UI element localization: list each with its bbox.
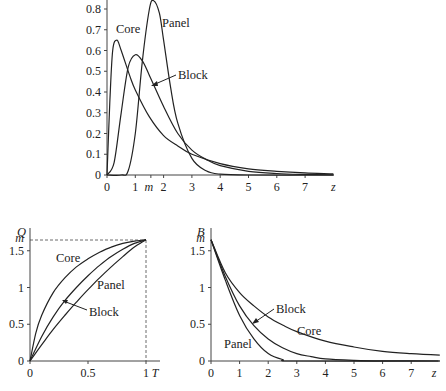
x-tick-label: 0 bbox=[104, 180, 110, 194]
right-x-ticks: 01234567z bbox=[208, 361, 437, 380]
top-x-ticks: 01m234567z bbox=[104, 175, 336, 194]
left-x-ticks: 00.51T bbox=[27, 361, 160, 380]
top-chart: 00.10.20.30.40.50.60.70.8 01m234567z Cor… bbox=[86, 0, 336, 194]
y-tick-label: 0.5 bbox=[86, 64, 101, 78]
left-block-arrow bbox=[66, 302, 87, 310]
y-tick-label: 0.5 bbox=[190, 317, 205, 331]
x-tick-label: 7 bbox=[408, 366, 414, 380]
x-tick-label: 0.5 bbox=[81, 366, 96, 380]
top-curves bbox=[107, 0, 333, 175]
y-tick-label: 0 bbox=[199, 354, 205, 368]
x-tick-label: 4 bbox=[217, 180, 223, 194]
right-label-block: Block bbox=[276, 302, 307, 316]
y-tick-label: 0.3 bbox=[86, 106, 101, 120]
y-tick-label: 0.2 bbox=[86, 127, 101, 141]
left-label-panel: Panel bbox=[97, 278, 125, 292]
x-tick-label: 4 bbox=[322, 366, 328, 380]
curve-panel bbox=[107, 0, 333, 175]
x-tick-label: 5 bbox=[246, 180, 252, 194]
y-tick-label: 1 bbox=[18, 281, 24, 295]
left-y-ticks: 00.511.5m bbox=[9, 231, 30, 368]
left-y-label: Q bbox=[17, 225, 26, 239]
x-tick-label: z bbox=[330, 180, 336, 194]
y-tick-label: 0 bbox=[95, 168, 101, 182]
x-tick-label: 7 bbox=[302, 180, 308, 194]
x-tick-label: 3 bbox=[294, 366, 300, 380]
right-label-panel: Panel bbox=[224, 337, 252, 351]
right-y-ticks: 00.511.5m bbox=[190, 231, 211, 368]
top-label-block: Block bbox=[178, 68, 209, 82]
x-tick-label: 2 bbox=[161, 180, 167, 194]
right-block-arrowhead bbox=[252, 318, 259, 324]
x-tick-label: 1 bbox=[132, 180, 138, 194]
curve-core bbox=[30, 240, 146, 361]
y-tick-label: 0.5 bbox=[9, 317, 24, 331]
x-tick-label: 3 bbox=[189, 180, 195, 194]
curve-block bbox=[30, 240, 146, 361]
x-tick-label: 0 bbox=[27, 366, 33, 380]
right-y-label: B bbox=[197, 225, 205, 239]
y-tick-label: 0.1 bbox=[86, 147, 101, 161]
y-tick-label: 0.8 bbox=[86, 2, 101, 16]
right-chart: 00.511.5m 01234567z B Block Core Panel bbox=[190, 225, 440, 380]
top-label-core: Core bbox=[116, 22, 141, 36]
top-label-panel: Panel bbox=[162, 16, 190, 30]
x-tick-label: 1 bbox=[237, 366, 243, 380]
right-block-arrow bbox=[255, 309, 274, 322]
x-tick-label: 2 bbox=[265, 366, 271, 380]
x-tick-label: 5 bbox=[351, 366, 357, 380]
left-label-block: Block bbox=[89, 305, 120, 319]
x-tick-label: 0 bbox=[208, 366, 214, 380]
figure: 00.10.20.30.40.50.60.70.8 01m234567z Cor… bbox=[0, 0, 446, 391]
x-tick-label: 1 bbox=[143, 366, 149, 380]
x-tick-label: z bbox=[431, 366, 437, 380]
curve-core bbox=[107, 40, 333, 175]
y-tick-label: 1 bbox=[199, 281, 205, 295]
x-tick-label: 6 bbox=[274, 180, 280, 194]
left-chart: 00.511.5m 00.51T Q Core Panel Block bbox=[9, 225, 160, 380]
x-tick-label: m bbox=[145, 180, 154, 194]
y-tick-label: 0 bbox=[18, 354, 24, 368]
curve-panel bbox=[30, 240, 146, 361]
left-label-core: Core bbox=[56, 251, 81, 265]
y-tick-label: 1.5 bbox=[190, 244, 205, 258]
right-label-core: Core bbox=[297, 324, 322, 338]
y-tick-label: 0.4 bbox=[86, 85, 101, 99]
y-tick-label: 0.6 bbox=[86, 44, 101, 58]
y-tick-label: 1.5 bbox=[9, 244, 24, 258]
x-axis-label: T bbox=[152, 366, 160, 380]
top-y-ticks: 00.10.20.30.40.50.60.70.8 bbox=[86, 2, 107, 182]
x-tick-label: 6 bbox=[380, 366, 386, 380]
y-tick-label: 0.7 bbox=[86, 23, 101, 37]
left-curves bbox=[30, 240, 146, 361]
